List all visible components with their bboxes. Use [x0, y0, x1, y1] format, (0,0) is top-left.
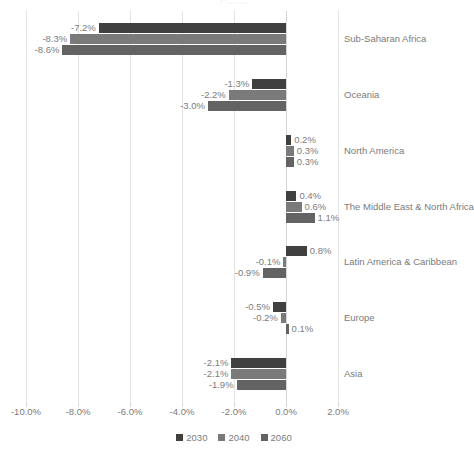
data-label: 1.1% — [318, 213, 340, 223]
bar[interactable] — [263, 268, 286, 278]
x-axis-tick: 0.0% — [275, 406, 297, 418]
bar[interactable] — [281, 313, 286, 323]
legend-label: 2060 — [271, 432, 292, 443]
data-label: -0.2% — [253, 313, 278, 323]
plot-area: -7.2%-8.3%-8.6%-1.3%-2.2%-3.0%0.2%0.3%0.… — [26, 11, 338, 402]
bar[interactable] — [286, 213, 315, 223]
bar[interactable] — [99, 23, 286, 33]
bar[interactable] — [283, 257, 286, 267]
x-axis-tick: 2.0% — [327, 406, 349, 418]
bar[interactable] — [231, 358, 286, 368]
data-label: 0.2% — [294, 135, 316, 145]
x-axis-tick: -10.0% — [11, 406, 41, 418]
bar-group: -2.1%-2.1%-1.9% — [26, 358, 338, 390]
bar[interactable] — [229, 90, 286, 100]
data-label: -3.0% — [180, 101, 205, 111]
data-label: 0.1% — [292, 324, 314, 334]
data-label: -8.6% — [35, 45, 60, 55]
category-label-europe: Europe — [344, 312, 375, 324]
data-label: 0.6% — [305, 202, 327, 212]
data-label: -7.2% — [71, 23, 96, 33]
category-label-oceania: Oceania — [344, 89, 379, 101]
bar[interactable] — [231, 369, 286, 379]
data-label: -1.9% — [209, 380, 234, 390]
bar[interactable] — [286, 324, 289, 334]
bar[interactable] — [286, 135, 291, 145]
bar[interactable] — [286, 146, 294, 156]
legend-item-2040[interactable]: 2040 — [218, 432, 249, 443]
data-label: 0.3% — [297, 157, 319, 167]
legend-swatch-icon — [218, 434, 225, 441]
bar[interactable] — [237, 380, 286, 390]
bar[interactable] — [252, 79, 286, 89]
data-label: 0.8% — [310, 246, 332, 256]
data-label: -2.1% — [204, 358, 229, 368]
data-label: -1.3% — [224, 79, 249, 89]
legend-item-2030[interactable]: 2030 — [176, 432, 207, 443]
legend-item-2060[interactable]: 2060 — [261, 432, 292, 443]
x-axis-tick-labels: -10.0%-8.0%-6.0%-4.0%-2.0%0.0%2.0% — [0, 406, 468, 422]
bar-group: 0.8%-0.1%-0.9% — [26, 246, 338, 278]
data-label: -0.5% — [245, 302, 270, 312]
bar-group: -0.5%-0.2%0.1% — [26, 302, 338, 334]
category-label-north-america: North America — [344, 145, 404, 157]
category-label-latin-america-caribbean: Latin America & Caribbean — [344, 256, 457, 268]
data-label: 0.4% — [299, 191, 321, 201]
bar[interactable] — [70, 34, 286, 44]
data-label: -0.9% — [235, 268, 260, 278]
bar[interactable] — [208, 101, 286, 111]
bar[interactable] — [286, 191, 296, 201]
bar[interactable] — [286, 157, 294, 167]
bar[interactable] — [286, 202, 302, 212]
bar[interactable] — [273, 302, 286, 312]
category-label-sub-saharan-africa: Sub-Saharan Africa — [344, 33, 426, 45]
bar-group: -1.3%-2.2%-3.0% — [26, 79, 338, 111]
gridline-20 — [338, 11, 339, 402]
data-label: -2.2% — [201, 90, 226, 100]
category-label-the-middle-east-north-africa: The Middle East & North Africa — [344, 201, 474, 213]
bar[interactable] — [286, 246, 307, 256]
x-axis-tick: -4.0% — [170, 406, 195, 418]
bar-group: -7.2%-8.3%-8.6% — [26, 23, 338, 55]
data-label: -0.1% — [256, 257, 281, 267]
data-label: -2.1% — [204, 369, 229, 379]
bar[interactable] — [62, 45, 286, 55]
legend-label: 2030 — [186, 432, 207, 443]
chart-title-remnant: Figure — [0, 0, 468, 4]
x-axis-tick: -2.0% — [222, 406, 247, 418]
legend-swatch-icon — [176, 434, 183, 441]
legend-label: 2040 — [228, 432, 249, 443]
chart-legend: 203020402060 — [0, 432, 468, 443]
data-label: -8.3% — [42, 34, 67, 44]
x-axis-tick: -6.0% — [118, 406, 143, 418]
bar-group: 0.2%0.3%0.3% — [26, 135, 338, 167]
data-label: 0.3% — [297, 146, 319, 156]
bar-group: 0.4%0.6%1.1% — [26, 191, 338, 223]
x-axis-tick: -8.0% — [66, 406, 91, 418]
legend-swatch-icon — [261, 434, 268, 441]
category-label-asia: Asia — [344, 368, 362, 380]
